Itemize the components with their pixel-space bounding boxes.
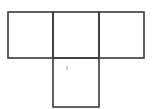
top-left-square: [8, 12, 53, 58]
top-right-square: [99, 12, 144, 58]
bottom-middle-square: [53, 58, 99, 107]
top-middle-square: [53, 12, 99, 58]
square-t-diagram: [0, 0, 156, 109]
squares-group: [8, 12, 144, 107]
